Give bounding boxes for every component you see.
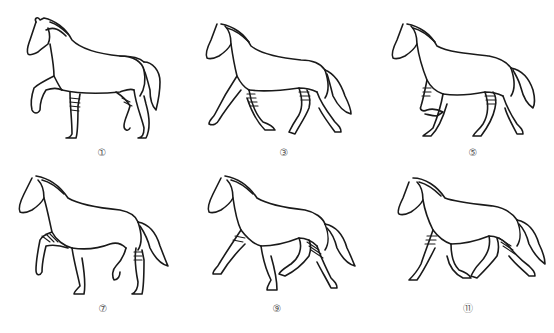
horse-figure-3: ③ [195,18,355,160]
horse-drawing [10,10,170,150]
figure-label: ⑤ [463,147,483,159]
horse-figure-11: ⑪ [395,172,554,317]
figure-label: ① [92,147,112,159]
horse-drawing [395,172,554,302]
figure-label: ⑦ [93,303,113,315]
figure-label: ⑨ [267,303,287,315]
figure-label: ⑪ [458,303,478,315]
horse-figure-5: ⑤ [385,18,545,160]
figure-label: ③ [274,147,294,159]
horse-drawing [385,18,545,148]
horse-figure-1: ① [10,10,170,160]
horse-drawing [195,172,360,302]
horse-drawing [195,18,355,148]
horse-drawing [10,172,170,302]
horse-figure-7: ⑦ [10,172,170,317]
horse-figure-9: ⑨ [195,172,360,317]
